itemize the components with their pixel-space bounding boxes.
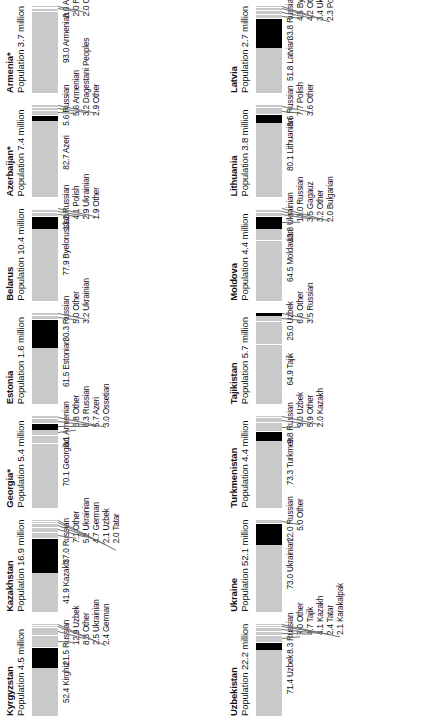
bar-segment-russian xyxy=(32,539,58,573)
segment-labels: 64.5 Moldavian13.8 Ukrainian13.0 Russian… xyxy=(282,209,378,301)
population-label: Population 4.5 million xyxy=(15,624,26,716)
population-label: Population 4.4 million xyxy=(239,209,250,301)
population-label: Population 10.4 million xyxy=(15,209,26,301)
country-title: Estonia xyxy=(4,313,15,405)
segment-labels: 93.0 Armenian3.0 Azeri2.0 Russian2.0 Oth… xyxy=(58,6,154,93)
bar-segment-other xyxy=(256,636,282,642)
country-title: Tajikistan xyxy=(228,313,239,405)
bar-segment-uzbek xyxy=(256,423,282,431)
bar-segment-gagauz xyxy=(256,213,282,216)
segment-labels: 71.4 Uzbek8.3 Russian7.0 Other4.7 Tajik4… xyxy=(282,624,378,716)
bar-segment-dagestani-peoples xyxy=(32,108,58,111)
segment-label: 2.0 Russian xyxy=(72,0,81,16)
segment-label: 73.0 Ukrainian xyxy=(286,539,295,589)
segment-labels: 73.3 Turkmen9.8 Russian9.0 Uzbek5.9 Othe… xyxy=(282,416,378,508)
bar-segment-karakalpak xyxy=(256,624,282,626)
leader-line xyxy=(58,426,86,427)
bar-segment-byelorussian xyxy=(256,15,282,19)
bar-segment-other xyxy=(32,209,58,211)
segment-labels: 70.1 Georgian8.1 Armenian6.8 Other6.3 Ru… xyxy=(58,416,154,508)
segment-labels: 61.5 Estonian30.3 Russian5.0 Other3.2 Uk… xyxy=(58,313,154,405)
stacked-bar xyxy=(256,209,282,301)
bar-segment-turkmen xyxy=(256,441,282,508)
bar-segment-armenian xyxy=(32,436,58,443)
bar-segment-ukrainian xyxy=(32,210,58,213)
bar-segment-bulgarian xyxy=(256,209,282,211)
bar-segment-russian xyxy=(256,432,282,441)
stacked-bar xyxy=(256,520,282,612)
segment-labels: 64.9 Tajik25.0 Uzbek6.6 Other3.5 Russian xyxy=(282,313,378,405)
country-panel-kyrgyzstan: KyrgyzstanPopulation 4.5 million52.4 Kir… xyxy=(0,618,224,722)
bar-segment-other xyxy=(32,628,58,636)
country-panel-uzbekistan: UzbekistanPopulation 22.2 million71.4 Uz… xyxy=(224,618,448,722)
bar-segment-armenian xyxy=(32,111,58,116)
segment-label: 73.3 Turkmen xyxy=(286,438,295,486)
bar-segment-uzbek xyxy=(256,322,282,345)
bar-segment-azeri xyxy=(32,121,58,197)
country-panel-kazakhstan: KazakhstanPopulation 16.9 million41.9 Ka… xyxy=(0,514,224,618)
country-panel-georgia: Georgia*Population 5.4 million70.1 Georg… xyxy=(0,410,224,514)
stacked-bar xyxy=(32,624,58,716)
population-label: Population 4.4 million xyxy=(239,416,250,508)
bar-segment-russian xyxy=(256,115,282,123)
segment-label: 64.9 Tajik xyxy=(286,353,295,385)
bar-segment-russian xyxy=(256,313,282,316)
segment-labels: 82.7 Azeri5.6 Russian5.6 Armenian3.2 Dag… xyxy=(58,105,154,197)
country-title: Moldova xyxy=(228,209,239,301)
bar-segment-tatar xyxy=(256,626,282,628)
bar-segment-other xyxy=(256,520,282,525)
segment-label: 2.0 Other xyxy=(82,0,91,16)
bar-segment-polish xyxy=(256,6,282,8)
stacked-bar xyxy=(256,6,282,93)
leader-line xyxy=(282,221,300,222)
segment-label: 51.8 Latvian xyxy=(286,39,295,81)
stacked-bar xyxy=(32,416,58,508)
country-title: Belarus xyxy=(4,209,15,301)
bar-segment-russian xyxy=(256,524,282,544)
rotated-figure-canvas: KyrgyzstanPopulation 4.5 million52.4 Kir… xyxy=(0,0,448,722)
bar-segment-russian xyxy=(32,116,58,121)
segment-labels: 52.4 Kirghiz21.5 Russian12.9 Uzbek8.3 Ot… xyxy=(58,624,154,716)
segment-label: 52.4 Kirghiz xyxy=(62,662,71,703)
segment-labels: 51.8 Latvian33.8 Russian4.5 Byelorussian… xyxy=(282,6,378,93)
bar-segment-latvian xyxy=(256,48,282,93)
bar-segment-ukrainian xyxy=(256,229,282,242)
country-title: Armenia* xyxy=(4,6,15,93)
bar-segment-kazakh xyxy=(256,628,282,632)
bar-segment-ossetian xyxy=(32,416,58,419)
bar-segment-tajik xyxy=(256,345,282,404)
stacked-bar xyxy=(32,105,58,197)
country-panel-ukraine: UkrainePopulation 52.1 million73.0 Ukrai… xyxy=(224,514,448,618)
bar-segment-ukrainian xyxy=(32,313,58,316)
bar-segment-azeri xyxy=(32,419,58,424)
bar-segment-kazakh xyxy=(32,573,58,612)
bar-segment-other xyxy=(256,210,282,213)
segment-labels: 41.9 Kazakh37.0 Russian7.1 Other5.2 Ukra… xyxy=(58,520,154,612)
segment-labels: 77.9 Byelorussian13.2 Russian4.1 Polish2… xyxy=(58,209,154,301)
stacked-bar xyxy=(256,624,282,716)
bar-segment-lithuanian xyxy=(256,123,282,196)
country-panel-armenia: Armenia*Population 3.7 million93.0 Armen… xyxy=(0,0,224,99)
bar-segment-armenian xyxy=(32,12,58,93)
stacked-bar xyxy=(32,313,58,405)
stacked-bar xyxy=(32,6,58,93)
bar-segment-other xyxy=(256,316,282,322)
bar-segment-russian xyxy=(32,8,58,10)
country-panel-latvia: LatviaPopulation 2.7 million51.8 Latvian… xyxy=(224,0,448,99)
bar-segment-kirghiz xyxy=(32,668,58,716)
bar-segment-uzbek xyxy=(32,636,58,648)
bar-segment-polish xyxy=(32,213,58,217)
stacked-bar xyxy=(32,209,58,301)
bar-segment-kazakh xyxy=(256,416,282,418)
bar-segment-azeri xyxy=(32,9,58,12)
bar-segment-uzbek xyxy=(256,650,282,716)
leader-line xyxy=(282,426,300,427)
country-title: Lithuania xyxy=(228,105,239,197)
population-label: Population 5.4 million xyxy=(15,416,26,508)
country-panel-tajikistan: TajikistanPopulation 5.7 million64.9 Taj… xyxy=(224,307,448,411)
population-label: Population 52.1 million xyxy=(239,520,250,612)
bar-segment-ukrainian xyxy=(32,528,58,533)
country-title: Azerbaijan* xyxy=(4,105,15,197)
segment-label: 71.4 Uzbek xyxy=(286,655,295,694)
bar-segment-other xyxy=(256,418,282,423)
